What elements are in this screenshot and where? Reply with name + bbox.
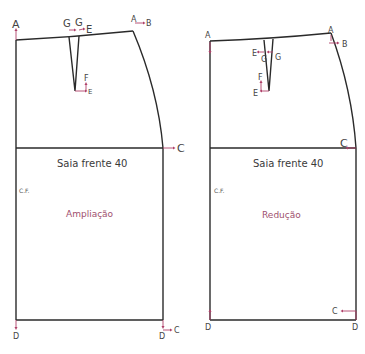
left-label-E-apex: E (88, 88, 92, 96)
left-label-G1: G (63, 18, 71, 29)
left-arrow-AB (135, 22, 146, 25)
left-pattern-title: Saia frente 40 (57, 158, 127, 169)
right-label-E-apex: E (253, 89, 258, 98)
left-arrow-E-apex (75, 90, 88, 93)
right-label-C-bottom: C (332, 307, 338, 316)
left-label-F: F (84, 74, 89, 83)
right-label-A-right: A (328, 26, 334, 35)
left-waistline (16, 31, 133, 40)
left-label-G2: G (75, 17, 83, 28)
left-dart (69, 36, 79, 91)
left-label-E-top: E (86, 24, 92, 35)
left-pattern-subtitle: Ampliação (66, 209, 114, 219)
left-arrow-D-right (162, 320, 165, 329)
right-dart (264, 39, 273, 91)
left-side-seam-curve (133, 31, 163, 148)
right-label-D-right: D (352, 323, 358, 332)
right-center-front-label: C.F. (214, 187, 225, 194)
left-pattern: A G G E F E A B C D D C Saia frente 40 C… (12, 15, 185, 341)
left-label-A: A (12, 18, 20, 31)
right-label-G1: G (261, 55, 267, 64)
right-label-E-top: E (252, 49, 257, 58)
right-arrow-A (209, 42, 212, 54)
left-arrow-C-hip (163, 147, 176, 150)
right-side-seam-curve (331, 33, 356, 148)
left-label-D-right: D (159, 332, 165, 341)
right-arrow-D-left (209, 309, 212, 320)
right-arrow-E-top (257, 51, 265, 54)
left-arrow-D-left (15, 320, 18, 330)
pattern-diagram: A G G E F E A B C D D C Saia frente 40 C… (0, 0, 365, 354)
left-label-A-right: A (131, 15, 137, 24)
right-label-C-hip: C (340, 137, 348, 150)
right-label-B: B (342, 40, 348, 49)
left-label-C-hip: C (177, 142, 185, 155)
right-waistline (210, 33, 331, 41)
right-label-F: F (258, 73, 263, 82)
right-arrow-AB (329, 35, 340, 45)
right-pattern-subtitle: Redução (262, 210, 301, 220)
left-label-D-left: D (13, 332, 19, 341)
right-label-D-left: D (205, 323, 211, 332)
right-arrow-C-bottom (341, 310, 357, 321)
left-label-C-bottom: C (174, 326, 180, 335)
right-pattern-title: Saia frente 40 (253, 158, 323, 169)
left-label-B: B (146, 19, 152, 28)
right-label-G2: G (275, 53, 281, 62)
right-pattern: A E G G F E A B C D D C Saia frente 40 C… (205, 26, 358, 332)
right-label-A: A (205, 31, 211, 40)
left-center-front-label: C.F. (19, 187, 30, 194)
